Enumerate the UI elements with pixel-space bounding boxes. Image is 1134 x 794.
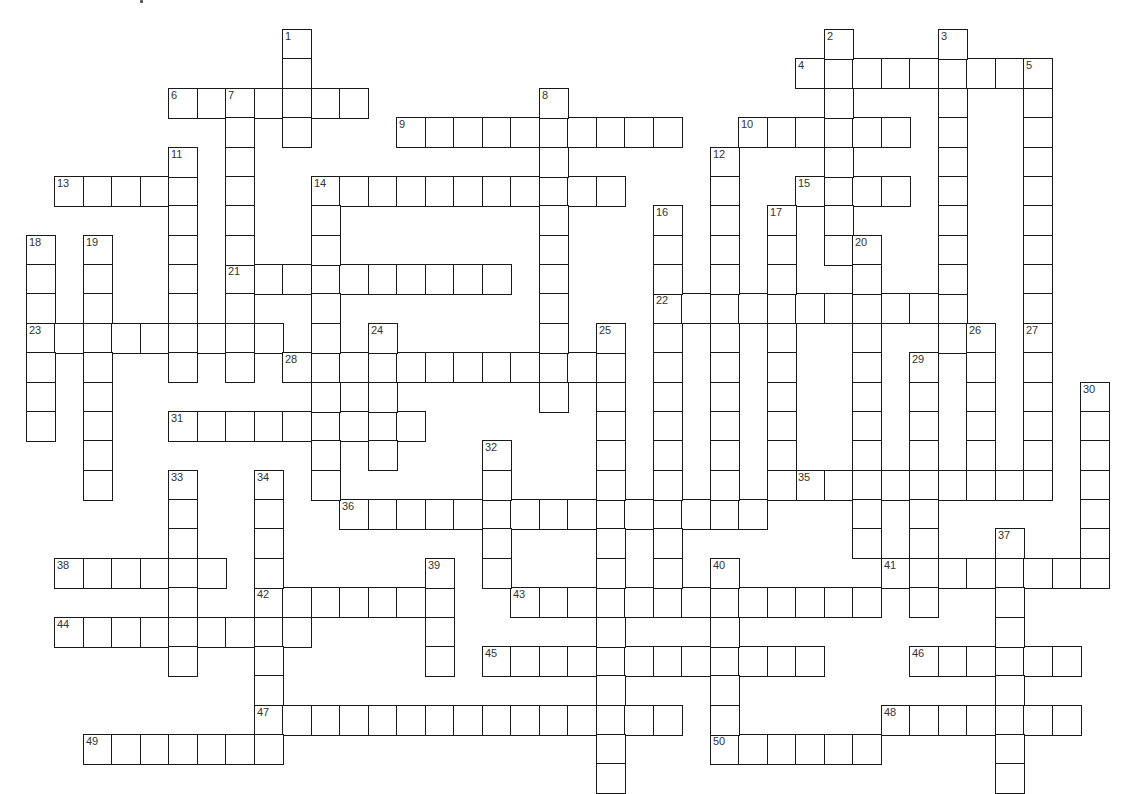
- crossword-cell[interactable]: [824, 176, 854, 207]
- crossword-cell[interactable]: [852, 499, 882, 530]
- crossword-cell-46[interactable]: 46: [909, 646, 939, 677]
- crossword-cell[interactable]: [140, 323, 170, 354]
- crossword-cell[interactable]: [396, 705, 426, 736]
- crossword-cell[interactable]: [624, 117, 654, 148]
- crossword-cell[interactable]: [881, 117, 911, 148]
- crossword-cell[interactable]: [1080, 528, 1110, 559]
- crossword-cell[interactable]: [482, 528, 512, 559]
- crossword-cell[interactable]: [966, 558, 996, 589]
- crossword-cell[interactable]: [482, 352, 512, 383]
- crossword-cell[interactable]: [966, 382, 996, 413]
- crossword-cell[interactable]: [909, 705, 939, 736]
- crossword-cell[interactable]: [425, 117, 455, 148]
- crossword-cell[interactable]: [368, 264, 398, 295]
- crossword-cell[interactable]: [396, 352, 426, 383]
- crossword-cell[interactable]: [368, 352, 398, 383]
- crossword-cell[interactable]: [83, 411, 113, 442]
- crossword-cell[interactable]: [938, 205, 968, 236]
- crossword-cell[interactable]: [254, 323, 284, 354]
- crossword-cell[interactable]: [225, 235, 255, 266]
- crossword-cell[interactable]: [425, 705, 455, 736]
- crossword-cell[interactable]: [995, 734, 1025, 765]
- crossword-cell[interactable]: [596, 617, 626, 648]
- crossword-cell-33[interactable]: 33: [168, 470, 198, 501]
- crossword-cell[interactable]: [539, 117, 569, 148]
- crossword-cell[interactable]: [909, 440, 939, 471]
- crossword-cell[interactable]: [938, 323, 968, 354]
- crossword-cell[interactable]: [938, 646, 968, 677]
- crossword-cell[interactable]: [1023, 470, 1053, 501]
- crossword-cell-10[interactable]: 10: [738, 117, 768, 148]
- crossword-cell[interactable]: [83, 323, 113, 354]
- crossword-cell-47[interactable]: 47: [254, 705, 284, 736]
- crossword-cell[interactable]: [938, 293, 968, 324]
- crossword-cell[interactable]: [368, 705, 398, 736]
- crossword-cell[interactable]: [339, 264, 369, 295]
- crossword-cell[interactable]: [225, 205, 255, 236]
- crossword-cell[interactable]: [111, 734, 141, 765]
- crossword-cell[interactable]: [995, 558, 1025, 589]
- crossword-cell[interactable]: [425, 617, 455, 648]
- crossword-cell[interactable]: [396, 499, 426, 530]
- crossword-cell[interactable]: [254, 499, 284, 530]
- crossword-cell[interactable]: [938, 470, 968, 501]
- crossword-cell[interactable]: [254, 675, 284, 706]
- crossword-cell[interactable]: [824, 88, 854, 119]
- crossword-cell[interactable]: [824, 734, 854, 765]
- crossword-cell[interactable]: [624, 499, 654, 530]
- crossword-cell[interactable]: [482, 264, 512, 295]
- crossword-cell[interactable]: [1023, 352, 1053, 383]
- crossword-cell[interactable]: [482, 470, 512, 501]
- crossword-cell[interactable]: [282, 117, 312, 148]
- crossword-cell-4[interactable]: 4: [795, 58, 825, 89]
- crossword-cell[interactable]: [710, 587, 740, 618]
- crossword-cell[interactable]: [1080, 558, 1110, 589]
- crossword-cell[interactable]: [339, 88, 369, 119]
- crossword-cell[interactable]: [225, 176, 255, 207]
- crossword-cell[interactable]: [311, 470, 341, 501]
- crossword-cell[interactable]: [909, 499, 939, 530]
- crossword-cell[interactable]: [1023, 235, 1053, 266]
- crossword-cell[interactable]: [824, 205, 854, 236]
- crossword-cell[interactable]: [510, 117, 540, 148]
- crossword-cell[interactable]: [510, 499, 540, 530]
- crossword-cell[interactable]: [681, 646, 711, 677]
- crossword-cell[interactable]: [339, 587, 369, 618]
- crossword-cell-14[interactable]: 14: [311, 176, 341, 207]
- crossword-cell[interactable]: [539, 293, 569, 324]
- crossword-cell[interactable]: [795, 646, 825, 677]
- crossword-cell-3[interactable]: 3: [938, 29, 968, 60]
- crossword-cell[interactable]: [938, 117, 968, 148]
- crossword-cell[interactable]: [168, 235, 198, 266]
- crossword-cell[interactable]: [995, 617, 1025, 648]
- crossword-cell[interactable]: [1080, 411, 1110, 442]
- crossword-cell-48[interactable]: 48: [881, 705, 911, 736]
- crossword-cell[interactable]: [567, 176, 597, 207]
- crossword-cell[interactable]: [26, 264, 56, 295]
- crossword-cell[interactable]: [168, 587, 198, 618]
- crossword-cell[interactable]: [453, 705, 483, 736]
- crossword-cell[interactable]: [311, 264, 341, 295]
- crossword-cell[interactable]: [311, 587, 341, 618]
- crossword-cell[interactable]: [596, 352, 626, 383]
- crossword-cell[interactable]: [339, 705, 369, 736]
- crossword-cell[interactable]: [225, 352, 255, 383]
- crossword-cell[interactable]: [624, 587, 654, 618]
- crossword-cell-36[interactable]: 36: [339, 499, 369, 530]
- crossword-cell[interactable]: [767, 411, 797, 442]
- crossword-cell[interactable]: [653, 352, 683, 383]
- crossword-cell[interactable]: [1023, 440, 1053, 471]
- crossword-cell[interactable]: [881, 470, 911, 501]
- crossword-cell[interactable]: [482, 499, 512, 530]
- crossword-cell[interactable]: [909, 382, 939, 413]
- crossword-cell[interactable]: [168, 499, 198, 530]
- crossword-cell-31[interactable]: 31: [168, 411, 198, 442]
- crossword-cell[interactable]: [83, 382, 113, 413]
- crossword-cell[interactable]: [396, 264, 426, 295]
- crossword-cell[interactable]: [1023, 558, 1053, 589]
- crossword-cell-35[interactable]: 35: [795, 470, 825, 501]
- crossword-cell-23[interactable]: 23: [26, 323, 56, 354]
- crossword-cell[interactable]: [425, 264, 455, 295]
- crossword-cell[interactable]: [909, 470, 939, 501]
- crossword-cell[interactable]: [881, 58, 911, 89]
